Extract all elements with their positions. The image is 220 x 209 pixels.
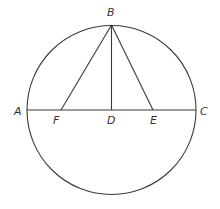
geometry-diagram: A B C D E F [0, 0, 220, 209]
label-b: B [107, 6, 115, 19]
label-c: C [200, 105, 208, 118]
segment-be [112, 25, 154, 110]
label-e: E [150, 114, 157, 127]
label-a: A [13, 105, 22, 118]
label-f: F [53, 114, 60, 127]
label-d: D [107, 114, 115, 127]
